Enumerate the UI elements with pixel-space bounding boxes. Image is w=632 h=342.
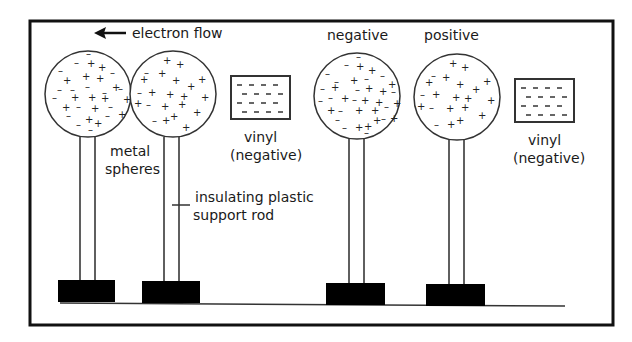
- svg-text:+: +: [487, 95, 495, 106]
- svg-text:+: +: [456, 79, 464, 90]
- svg-text:+: +: [134, 98, 142, 109]
- svg-text:+: +: [172, 75, 180, 86]
- svg-text:+: +: [356, 61, 364, 72]
- svg-text:–: –: [152, 115, 157, 126]
- svg-text:–: –: [105, 110, 110, 121]
- svg-text:+: +: [446, 103, 454, 114]
- svg-text:+: +: [368, 65, 376, 76]
- svg-text:+: +: [442, 72, 450, 83]
- svg-text:–: –: [328, 92, 333, 103]
- base-left-1: [58, 280, 115, 302]
- svg-text:–: –: [118, 83, 123, 94]
- svg-text:+: +: [452, 92, 460, 103]
- svg-text:–: –: [381, 113, 386, 124]
- svg-text:+: +: [182, 122, 190, 133]
- svg-text:–: –: [434, 119, 439, 130]
- vinyl-block-left: [231, 76, 290, 119]
- base-negative: [326, 283, 385, 305]
- svg-text:+: +: [379, 86, 387, 97]
- svg-text:+: +: [96, 73, 104, 84]
- induction-diagram: electron flow ––++ ––++ +–+– –––– ++++ +…: [0, 0, 632, 342]
- svg-text:–: –: [66, 110, 71, 121]
- vinyl-left-label-1: vinyl: [244, 129, 277, 145]
- svg-text:–: –: [342, 122, 347, 133]
- svg-text:+: +: [178, 99, 186, 110]
- svg-text:+: +: [417, 101, 425, 112]
- svg-text:–: –: [429, 102, 434, 113]
- svg-text:+: +: [88, 92, 96, 103]
- svg-text:+: +: [365, 83, 373, 94]
- base-positive: [426, 284, 485, 306]
- svg-text:+: +: [447, 119, 455, 130]
- svg-text:+: +: [425, 77, 433, 88]
- svg-text:–: –: [325, 68, 330, 79]
- svg-text:+: +: [170, 111, 178, 122]
- svg-text:–: –: [74, 57, 79, 68]
- svg-text:+: +: [198, 74, 206, 85]
- svg-text:+: +: [449, 58, 457, 69]
- svg-text:+: +: [163, 55, 171, 66]
- svg-text:+: +: [355, 105, 363, 116]
- svg-text:–: –: [318, 95, 323, 106]
- svg-text:–: –: [52, 92, 57, 103]
- svg-text:–: –: [364, 127, 369, 138]
- svg-text:+: +: [94, 118, 102, 129]
- vinyl-block-right: [515, 79, 574, 122]
- svg-text:+: +: [158, 68, 166, 79]
- positive-sphere-label: positive: [424, 27, 479, 43]
- electron-flow-label: electron flow: [132, 25, 222, 41]
- svg-text:+: +: [162, 115, 170, 126]
- svg-text:+: +: [148, 87, 156, 98]
- svg-text:+: +: [456, 115, 464, 126]
- svg-text:+: +: [176, 59, 184, 70]
- metal-spheres-label-1: metal: [110, 143, 150, 159]
- svg-text:+: +: [140, 74, 148, 85]
- svg-text:–: –: [391, 86, 396, 97]
- svg-text:+: +: [341, 93, 349, 104]
- svg-text:+: +: [87, 58, 95, 69]
- rod-label-1: insulating plastic: [195, 189, 314, 205]
- svg-text:+: +: [483, 76, 491, 87]
- svg-text:+: +: [461, 102, 469, 113]
- vinyl-left-label-2: (negative): [230, 147, 302, 163]
- svg-text:+: +: [472, 84, 480, 95]
- svg-text:+: +: [393, 98, 401, 109]
- svg-text:–: –: [110, 67, 115, 78]
- svg-text:–: –: [335, 114, 340, 125]
- svg-text:–: –: [146, 99, 151, 110]
- svg-text:–: –: [88, 124, 93, 135]
- svg-text:–: –: [352, 94, 357, 105]
- svg-text:+: +: [98, 62, 106, 73]
- svg-text:–: –: [57, 84, 62, 95]
- svg-text:–: –: [85, 81, 90, 92]
- svg-text:+: +: [166, 89, 174, 100]
- svg-text:+: +: [478, 110, 486, 121]
- svg-text:+: +: [118, 109, 126, 120]
- svg-text:–: –: [344, 59, 349, 70]
- svg-text:–: –: [76, 101, 81, 112]
- svg-text:+: +: [201, 92, 209, 103]
- svg-text:+: +: [161, 101, 169, 112]
- negative-sphere-label: negative: [327, 27, 388, 43]
- svg-text:+: +: [193, 107, 201, 118]
- svg-text:+: +: [432, 89, 440, 100]
- svg-text:–: –: [76, 119, 81, 130]
- metal-spheres-label-2: spheres: [105, 161, 160, 177]
- svg-text:–: –: [420, 89, 425, 100]
- svg-text:–: –: [384, 101, 389, 112]
- svg-text:–: –: [380, 70, 385, 81]
- svg-text:+: +: [355, 122, 363, 133]
- svg-text:+: +: [461, 62, 469, 73]
- svg-text:+: +: [390, 113, 398, 124]
- svg-text:–: –: [137, 87, 142, 98]
- vinyl-right-label-2: (negative): [513, 150, 585, 166]
- base-left-2: [142, 281, 200, 303]
- rod-label-2: support rod: [193, 207, 274, 223]
- svg-text:–: –: [320, 83, 325, 94]
- svg-text:+: +: [91, 103, 99, 114]
- vinyl-right-label-1: vinyl: [528, 132, 561, 148]
